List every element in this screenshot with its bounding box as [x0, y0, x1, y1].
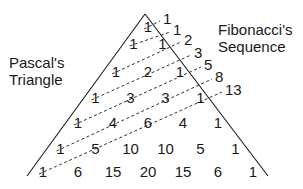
pascal-number: 4 [179, 114, 187, 131]
pascal-number: 1 [91, 89, 99, 106]
pascal-label-line2: Triangle [9, 71, 63, 88]
fibonacci-number: 1 [173, 21, 181, 38]
pascal-number: 3 [126, 89, 134, 106]
pascal-number: 10 [157, 140, 174, 157]
fibonacci-number: 5 [204, 56, 212, 73]
pascal-number: 10 [122, 140, 139, 157]
pascal-number: 1 [112, 63, 120, 80]
pascal-label-line1: Pascal's [9, 54, 64, 71]
pascal-number: 20 [140, 163, 157, 180]
pascal-number: 4 [109, 114, 117, 131]
pascal-number: 5 [91, 140, 99, 157]
fibonacci-number: 13 [225, 81, 242, 98]
fibonacci-number: 2 [184, 31, 192, 48]
pascal-number: 2 [144, 63, 152, 80]
pascal-number: 1 [144, 18, 152, 35]
pascal-number: 6 [144, 114, 152, 131]
pascal-number: 1 [56, 140, 64, 157]
pascal-number: 6 [74, 163, 82, 180]
pascal-number: 3 [161, 89, 169, 106]
pascal-number: 15 [105, 163, 122, 180]
pascal-number: 1 [196, 89, 204, 106]
pascal-number: 1 [249, 163, 257, 180]
pascal-fibonacci-diagram: 1111211331146411510105116152015611123581… [0, 0, 303, 189]
fibonacci-number: 8 [215, 68, 223, 85]
pascal-number: 15 [175, 163, 192, 180]
pascal-number: 1 [231, 140, 239, 157]
fibonacci-label-line2: Sequence [218, 38, 286, 55]
pascal-number: 1 [74, 114, 82, 131]
pascal-number: 5 [196, 140, 204, 157]
pascal-number: 1 [214, 114, 222, 131]
pascal-number: 1 [176, 63, 184, 80]
fibonacci-number: 3 [194, 44, 202, 61]
fibonacci-number: 1 [163, 10, 171, 27]
fibonacci-label-line1: Fibonacci's [218, 21, 293, 38]
pascal-number: 1 [158, 35, 166, 52]
pascal-number: 1 [129, 35, 137, 52]
pascal-number: 1 [39, 163, 47, 180]
pascal-number: 6 [214, 163, 222, 180]
